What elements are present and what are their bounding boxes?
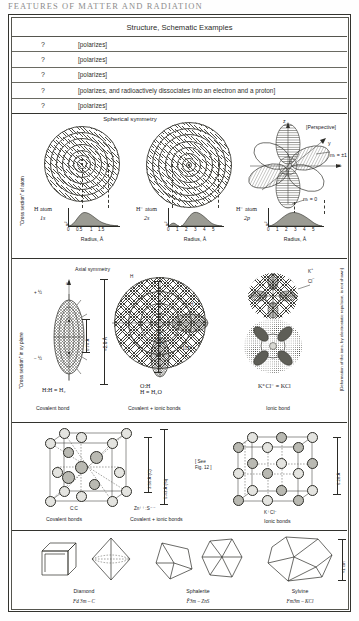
quantum-number-label-pm1: mₗ = ±1 xyxy=(330,153,347,158)
panel-bonding: "Cross section" in xy plane Axial symmet… xyxy=(12,259,347,423)
psi-squared-label-2: ψ² xyxy=(164,222,169,227)
caption-covalent-bonds: Covalent bonds xyxy=(46,517,82,522)
cross-section-of-atom-label: "Cross section" of atom xyxy=(20,176,25,226)
atom-name-3: H⁻ atom xyxy=(236,206,257,212)
caption-ionic-bonds: Ionic bonds xyxy=(264,519,291,524)
panel-title-spherical: Spherical symmetry xyxy=(103,116,157,122)
formula-kcl: K⁺Cl⁻ ≡ KCl xyxy=(258,383,291,389)
axis-marker-h2: H xyxy=(190,303,193,308)
tick-label: 3 xyxy=(294,228,297,233)
row-mark: ? xyxy=(12,102,74,109)
dimension-line xyxy=(342,539,343,581)
psi-squared-label-3: ψ² xyxy=(264,222,269,227)
quantum-number-label-zero: mₗ = 0 xyxy=(303,197,317,202)
dimension-543: 5.43 Å (Si) xyxy=(163,479,168,499)
tick-label: 0 xyxy=(267,228,270,233)
ion-label-k-plus: K+ xyxy=(308,267,313,274)
tick-label: 4 xyxy=(303,228,306,233)
tick-label: 5 xyxy=(312,228,315,233)
formula-h2: H:H ≡ H₂ xyxy=(42,387,66,393)
bond-angle-label: 105° xyxy=(182,347,192,352)
spacegroup-sphalerite: F̄3m – ZnS xyxy=(187,599,210,604)
tick-label: 5 xyxy=(212,228,215,233)
guide-line xyxy=(108,164,109,208)
dimension-356: 3.56 Å (C) xyxy=(147,469,152,489)
habit-tetrahedron-a xyxy=(152,537,198,583)
tick-label: 0.5 xyxy=(76,228,82,233)
dimension-628: 6.28 Å xyxy=(336,473,341,485)
row-mark: ? xyxy=(12,56,74,63)
tick-label: 0 xyxy=(67,228,70,233)
axis-x-label: x xyxy=(338,163,341,168)
table-row: ? [polarizes] xyxy=(12,99,347,114)
ion-label-cl-minus: Cl− xyxy=(308,277,315,284)
tick-label: 1 xyxy=(276,228,279,233)
mineral-name-sylvine: Sylvine xyxy=(292,589,309,594)
table-row: ? [polarizes] xyxy=(12,52,347,67)
caption-ionic-bond: Ionic bond xyxy=(266,406,290,411)
tick-label: 1 xyxy=(176,228,179,233)
running-head: FEATURES OF MATTER AND RADIATION xyxy=(8,1,308,11)
table-row: ? [polarizes] xyxy=(12,37,347,52)
see-figure-note: [ See Fig. 12 ] xyxy=(195,459,212,470)
scale-label-1cm: ≈1 cm xyxy=(341,561,346,573)
row-mark: ? xyxy=(12,71,74,78)
axis-y-label: y xyxy=(328,141,331,146)
dimension-line xyxy=(158,281,159,373)
panel-lattices: 3.56 Å (C) 5.43 Å (Si) C:C Covalent bond… xyxy=(12,423,347,531)
table-row: ? [polarizes, and radioactively dissocia… xyxy=(12,83,347,98)
kcl-ion-pair-lower xyxy=(240,317,326,379)
perspective-note: [Perspective] xyxy=(306,125,336,130)
axis-z-label: z xyxy=(283,119,286,124)
axis-label-radius-1: Radius, Å xyxy=(81,237,104,242)
dimension-074: 0.74 Å xyxy=(85,339,90,351)
orbital-name-2: 2s xyxy=(144,215,149,221)
cross-section-xy-label: "Cross section" in xy plane xyxy=(19,332,24,389)
guide-line xyxy=(82,158,83,208)
h2o-molecular-orbital xyxy=(108,273,212,385)
orbital-name-1: 1s xyxy=(40,215,45,221)
mineral-name-diamond: Diamond xyxy=(74,589,95,594)
lattice-diamond xyxy=(34,427,138,509)
habit-cube xyxy=(36,537,84,581)
caption-covalent-ionic-bonds: Covalent + ionic bonds xyxy=(130,517,183,522)
axis-marker-h: H xyxy=(130,275,133,280)
axis-label-radius-3: Radius, Å xyxy=(284,237,307,242)
figure-page: FEATURES OF MATTER AND RADIATION Structu… xyxy=(0,0,359,621)
guide-line xyxy=(324,200,325,214)
row-mark: ? xyxy=(12,87,74,94)
tick-label: 3 xyxy=(194,228,197,233)
guide-line xyxy=(172,164,173,208)
atom-name-2: H⁻ atom xyxy=(136,206,157,212)
dimension-line xyxy=(337,437,338,495)
habit-cubo-octahedron xyxy=(264,533,336,585)
bond-label-kcl: K⁺Cl⁻ xyxy=(264,511,277,516)
row-note: [polarizes, and radioactively dissociate… xyxy=(74,87,275,94)
row-note: [polarizes] xyxy=(74,41,107,48)
guide-line xyxy=(218,158,219,208)
atom-name-1: H atom xyxy=(34,206,52,212)
tick-label: 2 xyxy=(185,228,188,233)
table-row: ? [polarizes] xyxy=(12,68,347,83)
row-note: [polarizes] xyxy=(74,71,107,78)
orbital-cloud-2s xyxy=(146,122,232,208)
habit-tetrahedron-b xyxy=(198,535,246,583)
formula-h2o: O:H H ≡ H₂O xyxy=(140,384,162,396)
dimension-27: ≈2.7 Å xyxy=(157,333,162,347)
caption-covalent-ionic-bond: Covalent + ionic bonds xyxy=(128,406,181,411)
orbital-name-3: 2p xyxy=(244,215,250,221)
row-note: [polarizes] xyxy=(74,102,107,109)
dimension-line xyxy=(104,279,105,385)
orbital-cloud-2p-perspective xyxy=(242,118,350,210)
figure-frame: Structure, Schematic Examples ? [polariz… xyxy=(8,14,351,612)
deformation-note: [Deformation of the ions, by electrostat… xyxy=(339,268,344,391)
caption-covalent-bond: Covalent bond xyxy=(36,406,69,411)
lattice-kcl xyxy=(226,429,328,509)
bond-label-cc: C:C xyxy=(70,507,78,512)
axis-label-radius-2: Radius, Å xyxy=(184,237,207,242)
tick-label: 0 xyxy=(167,228,170,233)
tick-label: 4 xyxy=(203,228,206,233)
axial-symmetry-label: Axial symmetry xyxy=(75,267,110,272)
table-column-header: Structure, Schematic Examples xyxy=(12,18,347,37)
tick-label: 2 xyxy=(285,228,288,233)
